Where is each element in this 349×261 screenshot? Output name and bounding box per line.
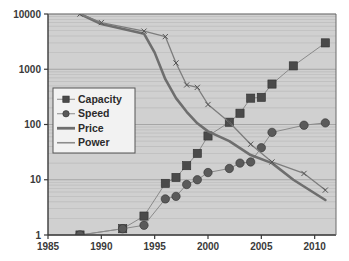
x-axis-tick-label: 2005 bbox=[250, 241, 273, 252]
x-axis-tick-label: 2000 bbox=[197, 241, 220, 252]
data-point-marker bbox=[140, 221, 148, 229]
legend-circle-marker-icon bbox=[63, 111, 69, 117]
data-point-marker bbox=[172, 192, 180, 200]
data-point-marker bbox=[257, 93, 265, 101]
data-point-marker bbox=[183, 162, 191, 170]
legend-label: Speed bbox=[78, 107, 110, 119]
x-axis-tick-label: 1990 bbox=[90, 241, 113, 252]
x-axis-tick-label: 1995 bbox=[144, 241, 167, 252]
y-axis-tick-label: 1000 bbox=[19, 64, 42, 75]
data-point-marker bbox=[140, 212, 148, 220]
data-point-marker bbox=[225, 164, 233, 172]
data-point-marker bbox=[236, 159, 244, 167]
legend-label: Price bbox=[78, 122, 104, 134]
data-point-marker bbox=[193, 149, 201, 157]
data-point-marker bbox=[118, 225, 126, 233]
y-axis-tick-label: 10000 bbox=[13, 9, 41, 20]
y-axis-tick-label: 100 bbox=[24, 119, 41, 130]
data-point-marker bbox=[161, 179, 169, 187]
data-point-marker bbox=[204, 168, 212, 176]
data-point-marker bbox=[289, 62, 297, 70]
data-point-marker bbox=[300, 121, 308, 129]
legend-label: Capacity bbox=[78, 93, 122, 105]
data-point-marker bbox=[193, 176, 201, 184]
legend-square-marker-icon bbox=[63, 96, 69, 102]
log-line-chart: 110100100010000 198519901995200020052010… bbox=[0, 0, 349, 261]
data-point-marker bbox=[182, 180, 190, 188]
y-axis-ticks: 110100100010000 bbox=[13, 9, 48, 241]
y-axis-tick-label: 10 bbox=[30, 174, 42, 185]
chart-legend: CapacitySpeedPricePower bbox=[53, 88, 135, 153]
chart-container: 110100100010000 198519901995200020052010… bbox=[0, 0, 349, 261]
data-point-marker bbox=[236, 109, 244, 117]
data-point-marker bbox=[247, 94, 255, 102]
data-point-marker bbox=[268, 80, 276, 88]
x-axis-ticks: 198519901995200020052010 bbox=[37, 235, 326, 252]
data-point-marker bbox=[172, 173, 180, 181]
x-axis-tick-label: 1985 bbox=[37, 241, 60, 252]
legend-label: Power bbox=[78, 136, 110, 148]
data-point-marker bbox=[321, 119, 329, 127]
x-axis-tick-label: 2010 bbox=[304, 241, 327, 252]
data-point-marker bbox=[161, 195, 169, 203]
y-axis-tick-label: 1 bbox=[35, 230, 41, 241]
data-point-marker bbox=[268, 128, 276, 136]
data-point-marker bbox=[321, 39, 329, 47]
data-point-marker bbox=[246, 158, 254, 166]
